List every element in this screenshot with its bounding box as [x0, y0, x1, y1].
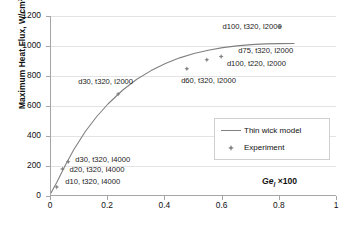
data-point-marker	[219, 54, 224, 59]
point-annotation-label: d100, t220, I2000	[227, 59, 286, 68]
x-axis-tick-mark	[222, 196, 223, 200]
legend: Thin wick model Experiment	[214, 118, 330, 160]
y-axis-tick-label: 200	[0, 160, 46, 170]
x-axis-tick-label: 0	[35, 200, 65, 210]
x-axis-tick-mark	[50, 196, 51, 200]
point-annotation-label: d20, t320, I4000	[70, 165, 125, 174]
y-axis-title-sup: 2	[17, 0, 23, 1]
y-axis-tick-label: 400	[0, 130, 46, 140]
chart-figure: Maximum Heat Flux, W/cm2 020040060080010…	[0, 0, 348, 230]
legend-entry-thin-wick-model: Thin wick model	[221, 126, 301, 135]
y-axis-title: Maximum Heat Flux, W/cm2	[17, 0, 28, 133]
point-annotation-label: d30, t320, I2000	[78, 77, 133, 86]
x-axis-tick-label: 0.6	[207, 200, 237, 210]
point-annotation-label: d10, t320, I4000	[65, 177, 120, 186]
data-point-marker	[116, 92, 121, 97]
point-annotation-label: d75, t320, I2000	[238, 46, 293, 55]
legend-label-thin-wick-model: Thin wick model	[244, 126, 301, 135]
x-axis-tick-label: 0.8	[264, 200, 294, 210]
data-point-marker	[184, 66, 189, 71]
x-axis-tick-label: 1	[321, 200, 348, 210]
plot-area: d100, t320, I2000d75, t320, I2000d100, t…	[50, 16, 336, 196]
data-point-marker	[60, 167, 65, 172]
x-axis-title: Gel ×100	[262, 176, 297, 188]
x-axis-tick-mark	[107, 196, 108, 200]
point-annotation-label: d100, t320, I2000	[223, 22, 282, 31]
x-axis-tick-mark	[336, 196, 337, 200]
data-point-marker	[204, 57, 209, 62]
point-annotation-label: d60, t320, I2000	[181, 76, 236, 85]
x-axis-tick-label: 0.4	[149, 200, 179, 210]
data-point-marker	[54, 185, 59, 190]
x-axis-title-symbol: Ge	[262, 176, 273, 186]
legend-line-swatch	[221, 130, 241, 131]
legend-label-experiment: Experiment	[244, 143, 284, 152]
legend-marker-swatch	[221, 145, 241, 151]
x-axis-title-suffix: ×100	[278, 176, 297, 186]
y-axis-tick-label: 600	[0, 100, 46, 110]
x-axis-tick-label: 0.2	[92, 200, 122, 210]
y-axis-tick-label: 800	[0, 70, 46, 80]
data-point-marker	[66, 159, 71, 164]
y-axis-tick-label: 1200	[0, 10, 46, 20]
legend-entry-experiment: Experiment	[221, 143, 284, 152]
x-axis-tick-mark	[164, 196, 165, 200]
y-axis-tick-label: 0	[0, 190, 46, 200]
x-axis-title-subscript: l	[273, 181, 275, 188]
y-axis-tick-label: 1000	[0, 40, 46, 50]
x-axis-tick-mark	[279, 196, 280, 200]
point-annotation-label: d30, t320, I4000	[75, 155, 130, 164]
